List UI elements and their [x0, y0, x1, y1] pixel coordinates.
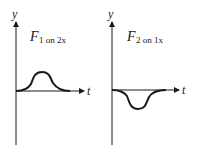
- panel-f2-on-1x: y t F 2 on 1x: [107, 7, 186, 145]
- force-label: F: [29, 29, 39, 44]
- panel-f1-on-2x: y t F 1 on 2x: [11, 7, 91, 145]
- force-label: F: [126, 29, 136, 44]
- force-label-subscript: 2 on 1x: [136, 35, 164, 45]
- force-curve-positive: [16, 72, 70, 91]
- t-axis-label: t: [182, 83, 186, 97]
- force-time-diagrams: y t F 1 on 2x y t F 2 on 1x: [0, 0, 197, 156]
- force-label-main: F: [29, 29, 39, 44]
- y-axis-label: y: [11, 7, 18, 21]
- force-curve-negative: [112, 90, 166, 109]
- t-axis-label: t: [87, 84, 91, 98]
- force-label-main: F: [126, 29, 136, 44]
- force-label-subscript: 1 on 2x: [39, 35, 67, 45]
- y-axis-label: y: [107, 7, 114, 21]
